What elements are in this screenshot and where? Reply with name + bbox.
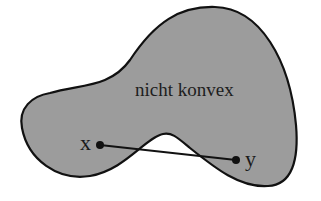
- point-y-dot: [232, 156, 240, 164]
- non-convex-set-diagram: nicht konvex x y: [0, 0, 321, 201]
- point-x-dot: [96, 141, 104, 149]
- shape-label: nicht konvex: [135, 79, 234, 100]
- point-y-label: y: [245, 146, 256, 171]
- point-x-label: x: [80, 130, 91, 155]
